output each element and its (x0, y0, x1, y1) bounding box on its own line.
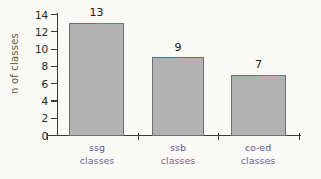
x-category-line2: classes (222, 155, 294, 168)
x-tick-2 (218, 133, 219, 140)
x-category-label-co-ed: co-ed classes (222, 142, 294, 167)
y-axis-title: n of classes (9, 26, 20, 102)
x-category-line1: ssg (61, 142, 133, 155)
y-tick-0 (51, 135, 58, 136)
bar-ssb-classes[interactable] (152, 57, 204, 136)
y-tick-12 (51, 31, 58, 32)
y-tick-2 (51, 118, 58, 119)
y-tick-label-10: 10 (26, 44, 48, 55)
y-tick-label-8: 8 (26, 61, 48, 72)
x-tick-end (299, 133, 300, 140)
x-category-label-ssb: ssb classes (142, 142, 214, 167)
y-tick-label-12: 12 (26, 27, 48, 38)
y-tick-10 (51, 49, 58, 50)
bar-value-co-ed-classes: 7 (231, 59, 286, 70)
y-tick-label-0: 0 (26, 131, 48, 142)
x-category-line2: classes (61, 155, 133, 168)
y-tick-8 (51, 66, 58, 67)
bar-value-ssg-classes: 13 (69, 7, 124, 18)
x-tick-start (47, 133, 48, 140)
x-category-line1: co-ed (222, 142, 294, 155)
y-tick-label-6: 6 (26, 79, 48, 90)
y-tick-4 (51, 100, 58, 101)
x-category-line2: classes (142, 155, 214, 168)
bar-value-ssb-classes: 9 (152, 42, 204, 53)
x-tick-1 (138, 133, 139, 140)
y-tick-label-14: 14 (26, 10, 48, 21)
x-category-line1: ssb (142, 142, 214, 155)
bar-co-ed-classes[interactable] (231, 75, 286, 137)
y-tick-label-4: 4 (26, 96, 48, 107)
bar-chart: n of classes 0 2 4 6 8 10 12 14 13 9 7 s… (0, 0, 321, 179)
y-tick-14 (51, 14, 58, 15)
x-category-label-ssg: ssg classes (61, 142, 133, 167)
bar-ssg-classes[interactable] (69, 23, 124, 136)
y-tick-label-2: 2 (26, 113, 48, 124)
y-tick-6 (51, 83, 58, 84)
